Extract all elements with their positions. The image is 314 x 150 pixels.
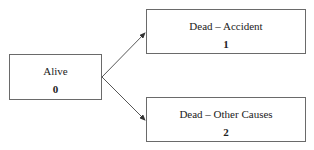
node-label: Dead – Accident [147,20,305,32]
arrow-alive-to-accident [102,33,145,77]
node-state-number: 2 [147,126,305,138]
node-dead-other-causes: Dead – Other Causes 2 [146,97,306,142]
node-state-number: 1 [147,38,305,50]
node-label: Dead – Other Causes [147,108,305,120]
node-state-number: 0 [10,83,101,95]
node-label: Alive [10,65,101,77]
node-alive: Alive 0 [9,54,102,100]
arrow-alive-to-other [102,77,145,120]
node-dead-accident: Dead – Accident 1 [146,9,306,54]
